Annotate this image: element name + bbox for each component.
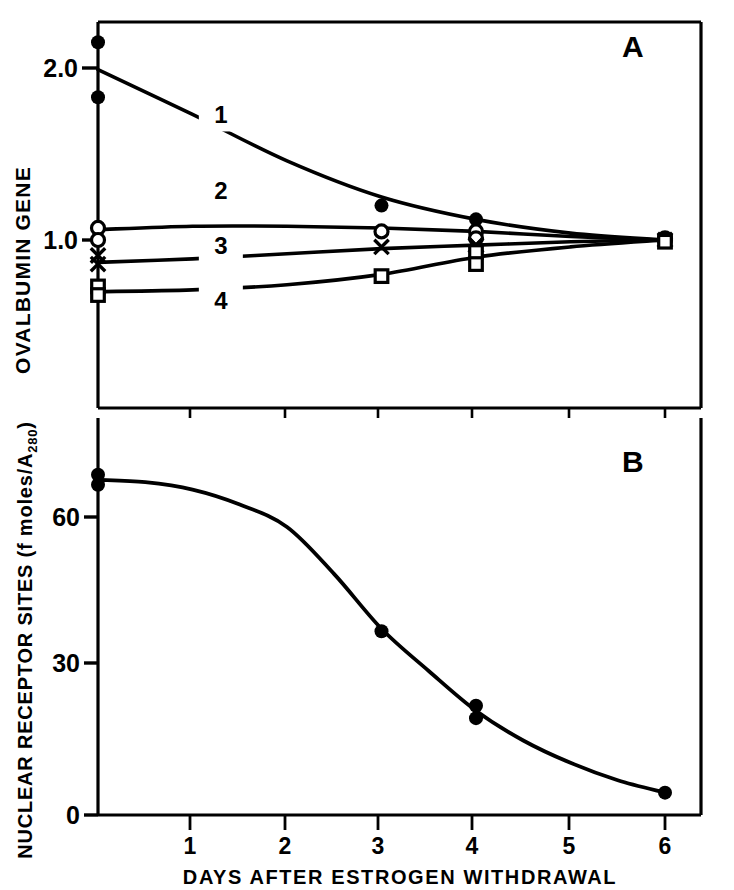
data-point-filled-circle: [375, 199, 389, 213]
panel-a-label: A: [622, 30, 644, 63]
data-point-filled-circle: [91, 35, 105, 49]
x-axis-title: DAYS AFTER ESTROGEN WITHDRAWAL: [183, 866, 617, 888]
panel-a-ytick-label-1: 1.0: [43, 226, 78, 254]
data-point-filled-circle: [469, 711, 483, 725]
curve-label-3: 3: [214, 232, 227, 259]
panel-b-y-axis-label-tail: ): [14, 421, 36, 428]
xtick-label-6: 6: [659, 833, 672, 859]
data-point-open-square: [375, 270, 388, 283]
panel-b-y-axis-label-main: NUCLEAR RECEPTOR SITES (f moles/A: [14, 453, 36, 859]
data-point-open-square: [92, 289, 105, 302]
panel-b-ytick-label-60: 60: [52, 503, 80, 531]
data-point-filled-circle: [658, 786, 672, 800]
xtick-label-2: 2: [279, 833, 292, 859]
data-point-filled-circle: [91, 478, 105, 492]
panel-b-label: B: [622, 445, 644, 478]
data-point-open-circle: [92, 234, 105, 247]
figure-container: 2.0 1.0 OVALBUMIN GENE A 1 2 3 4: [0, 0, 734, 890]
panel-b-ytick-label-0: 0: [66, 801, 80, 829]
panel-a-y-axis-label: OVALBUMIN GENE: [11, 166, 34, 374]
xtick-label-5: 5: [563, 833, 576, 859]
data-point-filled-circle: [375, 624, 389, 638]
curve-label-4: 4: [214, 287, 228, 314]
xtick-label-4: 4: [466, 833, 479, 859]
xtick-label-3: 3: [372, 833, 385, 859]
data-point-open-square: [659, 235, 672, 248]
data-point-filled-circle: [91, 90, 105, 104]
data-point-open-circle: [375, 225, 388, 238]
curve-label-1: 1: [214, 101, 227, 128]
panel-b-y-axis-label-subscript: 280: [25, 429, 40, 453]
panel-b-ytick-label-30: 30: [52, 649, 80, 677]
scientific-figure: 2.0 1.0 OVALBUMIN GENE A 1 2 3 4: [0, 0, 734, 890]
xtick-label-1: 1: [184, 833, 197, 859]
data-point-open-square: [470, 258, 483, 271]
panel-a-ytick-label-2: 2.0: [43, 54, 78, 82]
data-point-filled-circle: [469, 699, 483, 713]
curve-label-2: 2: [214, 177, 227, 204]
